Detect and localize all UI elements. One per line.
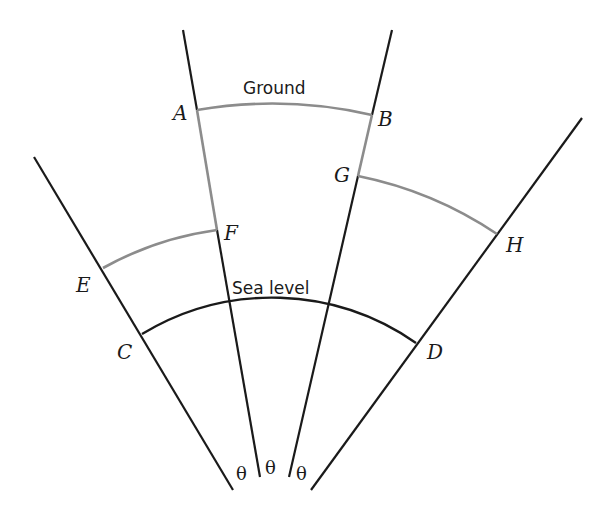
point-label-D: D	[426, 340, 443, 364]
sea-level-label: Sea level	[232, 278, 310, 298]
theta-label-right: θ	[296, 463, 307, 484]
arc-GH	[358, 176, 497, 234]
arc-EF	[103, 230, 217, 268]
point-label-E: E	[75, 273, 91, 297]
point-label-A: A	[171, 101, 187, 125]
point-label-H: H	[505, 233, 524, 257]
ray-inner-right-top	[372, 30, 392, 115]
ray-inner-left-bottom	[217, 230, 260, 477]
point-label-B: B	[377, 107, 393, 131]
segment-BG	[358, 115, 372, 176]
point-label-G: G	[334, 163, 350, 187]
ray-inner-left-top	[183, 30, 197, 110]
ray-inner-right-bottom	[289, 176, 358, 477]
arc-ground-AB	[197, 104, 372, 115]
theta-label-left: θ	[236, 463, 247, 484]
arc-sea-level-CD	[142, 298, 416, 343]
theta-label-middle: θ	[265, 457, 276, 478]
sea-level-ground-diagram: Ground Sea level A B G F H E C D θ θ θ	[0, 0, 616, 517]
ray-outer-right	[311, 118, 582, 490]
ray-outer-left	[34, 157, 233, 490]
ground-label: Ground	[243, 78, 306, 98]
point-label-F: F	[223, 221, 239, 245]
point-label-C: C	[117, 340, 132, 364]
segment-AF	[197, 110, 217, 230]
